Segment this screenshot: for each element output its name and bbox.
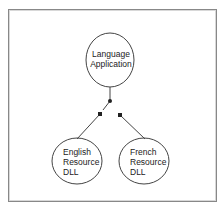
label-french-resource-dll: French Resource DLL: [130, 147, 170, 177]
switch-pivot-dot: [108, 99, 112, 103]
edge-switch-to-english: [77, 114, 100, 139]
label-line: DLL: [130, 167, 170, 177]
label-language-application: Language Application: [88, 49, 134, 69]
label-line: English: [63, 147, 103, 157]
label-line: DLL: [63, 167, 103, 177]
label-line: Resource: [63, 157, 103, 167]
label-line: Language: [88, 49, 134, 59]
label-line: Resource: [130, 157, 170, 167]
edge-switch-to-french: [120, 115, 145, 139]
label-line: Application: [88, 59, 134, 69]
diagram-canvas: [0, 0, 223, 208]
switch-contact-english: [98, 112, 102, 116]
switch-contact-french: [118, 113, 122, 117]
label-english-resource-dll: English Resource DLL: [63, 147, 103, 177]
label-line: French: [130, 147, 170, 157]
